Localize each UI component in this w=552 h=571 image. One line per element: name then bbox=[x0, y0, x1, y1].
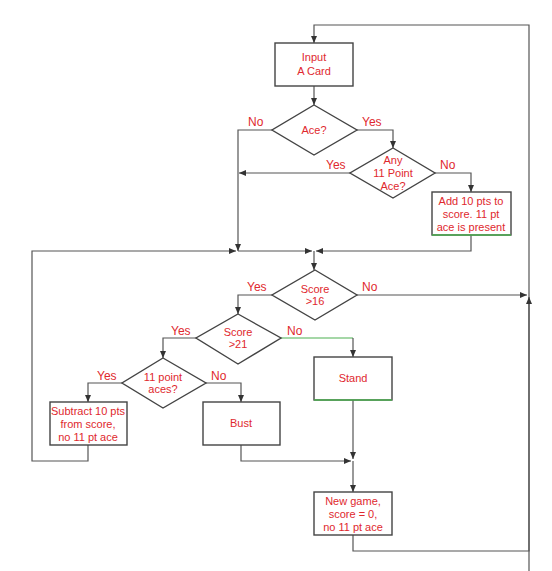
node-newgame-line-2: score = 0, bbox=[329, 508, 378, 520]
edge-label-score16-yes: Yes bbox=[247, 280, 267, 294]
node-input-card-line-2: A Card bbox=[297, 65, 331, 77]
node-ace-decision: Ace? bbox=[272, 105, 357, 155]
node-any11-line-2: 11 Point bbox=[373, 167, 413, 179]
node-stand-line-1: Stand bbox=[339, 372, 368, 384]
node-stand: Stand bbox=[314, 357, 392, 400]
node-add10-line-3: ace is present bbox=[437, 221, 505, 233]
connector-score16-yes bbox=[238, 295, 272, 314]
node-11-point-aces-decision: 11 point aces? bbox=[122, 358, 206, 408]
node-any-11-point-ace-decision: Any 11 Point Ace? bbox=[350, 148, 435, 198]
node-aces11-line-2: aces? bbox=[148, 383, 177, 395]
node-any11-line-3: Ace? bbox=[380, 180, 405, 192]
node-newgame-line-3: no 11 pt ace bbox=[323, 521, 383, 533]
node-add10-line-2: score. 11 pt bbox=[443, 208, 500, 220]
connector-bust-to-merge bbox=[241, 445, 351, 461]
edge-label-aces11-yes: Yes bbox=[97, 369, 117, 383]
connector-ace-no bbox=[238, 130, 272, 251]
node-score-gt-16-decision: Score >16 bbox=[272, 270, 357, 320]
node-subtract-line-3: no 11 pt ace bbox=[58, 431, 118, 443]
connector-add10-to-merge bbox=[316, 235, 471, 251]
node-score21-line-2: >21 bbox=[229, 338, 248, 350]
node-any11-line-1: Any bbox=[384, 154, 403, 166]
connector-any11-no bbox=[435, 173, 471, 192]
edge-label-ace-yes: Yes bbox=[362, 115, 382, 129]
connector-score21-yes bbox=[163, 338, 196, 358]
edge-label-any11-no: No bbox=[440, 158, 456, 172]
node-add-10-pts: Add 10 pts to score. 11 pt ace is presen… bbox=[432, 192, 511, 235]
edge-label-score21-no: No bbox=[287, 324, 303, 338]
node-bust-line-1: Bust bbox=[230, 417, 252, 429]
connector-ace-yes bbox=[357, 130, 393, 148]
edge-label-any11-yes: Yes bbox=[326, 158, 346, 172]
edge-label-ace-no: No bbox=[248, 115, 264, 129]
node-newgame-line-1: New game, bbox=[325, 495, 381, 507]
node-score16-line-2: >16 bbox=[306, 295, 325, 307]
node-subtract-line-1: Subtract 10 pts bbox=[51, 405, 125, 417]
node-score21-line-1: Score bbox=[224, 326, 253, 338]
node-ace-line-1: Ace? bbox=[301, 124, 326, 136]
node-input-card: Input A Card bbox=[275, 43, 353, 86]
node-input-card-line-1: Input bbox=[302, 51, 326, 63]
edge-label-aces11-no: No bbox=[211, 369, 227, 383]
node-aces11-line-1: 11 point bbox=[144, 371, 182, 383]
connector-aces11-yes bbox=[88, 383, 122, 402]
node-score16-line-1: Score bbox=[301, 283, 330, 295]
node-subtract-10-pts: Subtract 10 pts from score, no 11 pt ace bbox=[50, 402, 127, 445]
node-subtract-line-2: from score, bbox=[60, 418, 115, 430]
node-bust: Bust bbox=[203, 402, 280, 445]
flowchart: Input A Card Ace? Any 11 Point Ace? Add … bbox=[0, 0, 552, 571]
node-new-game: New game, score = 0, no 11 pt ace bbox=[314, 492, 392, 535]
connector-aces11-no bbox=[206, 383, 241, 402]
node-add10-line-1: Add 10 pts to bbox=[439, 195, 504, 207]
edge-label-score21-yes: Yes bbox=[171, 324, 191, 338]
node-score-gt-21-decision: Score >21 bbox=[196, 314, 281, 364]
edge-label-score16-no: No bbox=[362, 280, 378, 294]
